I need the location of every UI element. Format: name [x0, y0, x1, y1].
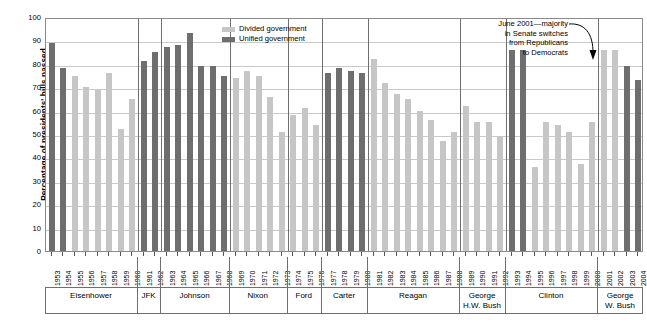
year-divider-nixon — [229, 257, 230, 287]
x-tick-1969 — [235, 252, 236, 256]
bar-1983[interactable] — [394, 94, 400, 251]
bar-1979[interactable] — [348, 71, 354, 251]
y-tick-50: 50 — [19, 131, 41, 139]
bar-2004[interactable] — [635, 80, 641, 251]
year-divider-clinton — [505, 257, 506, 287]
bar-1961[interactable] — [141, 61, 147, 251]
x-tick-1981 — [373, 252, 374, 256]
annotation-line-2: in Senate switches — [428, 29, 568, 39]
bar-1980[interactable] — [359, 73, 365, 251]
x-tick-1995 — [534, 252, 535, 256]
presidency-label-line-1: JFK — [137, 291, 160, 301]
bar-1984[interactable] — [405, 99, 411, 251]
bar-1974[interactable] — [290, 115, 296, 251]
bar-1960[interactable] — [129, 99, 135, 251]
annotation-line-1: June 2001—majority — [428, 19, 568, 29]
bar-1981[interactable] — [371, 59, 377, 251]
bar-1966[interactable] — [198, 66, 204, 251]
bar-1957[interactable] — [95, 90, 101, 251]
bar-1986[interactable] — [428, 120, 434, 251]
bar-1996[interactable] — [543, 122, 549, 251]
y-tick-70: 70 — [19, 84, 41, 92]
x-tick-1964 — [177, 252, 178, 256]
bar-1988[interactable] — [451, 132, 457, 251]
x-tick-1973 — [281, 252, 282, 256]
plot-divider-ford — [288, 19, 289, 251]
bar-1971[interactable] — [256, 76, 262, 252]
presidency-label-line-1: Eisenhower — [45, 291, 137, 301]
presidency-label-line-1: Ford — [287, 291, 322, 301]
presidency-label-line-1: Reagan — [367, 291, 459, 301]
bar-1972[interactable] — [267, 97, 273, 251]
bar-1969[interactable] — [233, 78, 239, 251]
presidency-label-line-2: W. Bush — [597, 301, 643, 311]
bar-1962[interactable] — [152, 52, 158, 251]
bar-1953[interactable] — [49, 43, 55, 251]
year-divider-johnson — [160, 257, 161, 287]
y-tick-60: 60 — [19, 108, 41, 116]
x-tick-1975 — [304, 252, 305, 256]
x-tick-1999 — [580, 252, 581, 256]
x-tick-1982 — [384, 252, 385, 256]
bar-1975[interactable] — [302, 108, 308, 251]
bar-1991[interactable] — [486, 122, 492, 251]
bar-2003[interactable] — [624, 66, 630, 251]
bar-2002[interactable] — [612, 50, 618, 251]
bar-1995[interactable] — [532, 167, 538, 251]
bar-1970[interactable] — [244, 71, 250, 251]
bar-1959[interactable] — [118, 129, 124, 251]
bar-1978[interactable] — [336, 68, 342, 251]
bar-1954[interactable] — [60, 68, 66, 251]
x-tick-1977 — [327, 252, 328, 256]
bar-1976[interactable] — [313, 125, 319, 251]
year-band-dividers — [45, 257, 643, 287]
plot-divider-johnson — [161, 19, 162, 251]
legend-swatch-unified — [222, 37, 235, 42]
x-tick-2004 — [637, 252, 638, 256]
bar-1956[interactable] — [83, 87, 89, 251]
bar-1955[interactable] — [72, 76, 78, 252]
x-tick-1968 — [223, 252, 224, 256]
presidency-label-george-w-bush: GeorgeW. Bush — [597, 291, 643, 311]
legend-label-unified: Unified government — [239, 34, 305, 44]
y-tick-20: 20 — [19, 201, 41, 209]
bar-1967[interactable] — [210, 66, 216, 251]
bar-1985[interactable] — [417, 111, 423, 251]
x-tick-2002 — [614, 252, 615, 256]
bar-1992[interactable] — [497, 136, 503, 251]
bar-1968[interactable] — [221, 76, 227, 252]
bar-1989[interactable] — [463, 106, 469, 251]
bar-1999[interactable] — [578, 164, 584, 251]
bar-1994[interactable] — [520, 50, 526, 251]
bar-1990[interactable] — [474, 122, 480, 251]
presidency-bands: EisenhowerJFKJohnsonNixonFordCarterReaga… — [45, 287, 643, 314]
annotation-arrow-icon — [568, 20, 604, 65]
bar-1973[interactable] — [279, 132, 285, 251]
x-tick-1956 — [85, 252, 86, 256]
legend-label-divided: Divided government — [239, 24, 307, 34]
bar-2001[interactable] — [601, 50, 607, 251]
presidency-label-line-1: Carter — [321, 291, 367, 301]
x-tick-1954 — [62, 252, 63, 256]
bar-1958[interactable] — [106, 73, 112, 251]
bar-1963[interactable] — [164, 47, 170, 251]
bar-1998[interactable] — [566, 132, 572, 251]
bar-1982[interactable] — [382, 83, 388, 251]
bar-1965[interactable] — [187, 33, 193, 251]
bar-1964[interactable] — [175, 45, 181, 251]
bar-1993[interactable] — [509, 50, 515, 251]
bar-1997[interactable] — [555, 125, 561, 251]
x-tick-1962 — [154, 252, 155, 256]
y-tick-0: 0 — [19, 248, 41, 256]
x-tick-1967 — [212, 252, 213, 256]
bar-2000[interactable] — [589, 122, 595, 251]
bar-1987[interactable] — [440, 141, 446, 251]
bar-1977[interactable] — [325, 73, 331, 251]
presidency-label-line-1: Nixon — [229, 291, 287, 301]
y-tick-10: 10 — [19, 225, 41, 233]
y-tick-30: 30 — [19, 178, 41, 186]
y-axis-tick-labels: 1009080706050403020100 — [19, 0, 41, 323]
x-tick-1993 — [511, 252, 512, 256]
x-tick-1978 — [338, 252, 339, 256]
x-tick-1979 — [350, 252, 351, 256]
